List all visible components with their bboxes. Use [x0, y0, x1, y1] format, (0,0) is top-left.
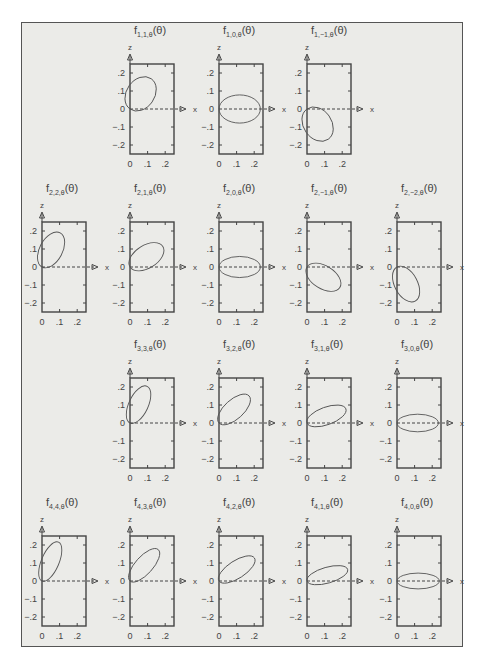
z-tick-label: −.2: [379, 612, 392, 622]
z-tick-label: −.2: [379, 298, 392, 308]
z-tick-label: 0: [32, 262, 37, 272]
z-tick-label: −.2: [379, 454, 392, 464]
lobe-plot-panel: f1,−1,θ(θ)z.2.10−.1−.20.1.2x: [289, 24, 374, 169]
x-tick-label: .1: [321, 159, 329, 169]
z-tick-label: 0: [120, 104, 125, 114]
x-axis-label: x: [370, 419, 374, 428]
z-tick-label: −.2: [112, 454, 125, 464]
z-tick-label: −.1: [112, 280, 125, 290]
z-tick-label: .1: [117, 86, 125, 96]
z-tick-label: 0: [209, 418, 214, 428]
x-axis-label: x: [105, 263, 109, 272]
z-tick-label: −.2: [201, 298, 214, 308]
z-tick-label: −.2: [24, 298, 37, 308]
z-tick-label: 0: [120, 418, 125, 428]
z-axis-label: z: [395, 201, 399, 210]
z-tick-label: 0: [297, 104, 302, 114]
z-tick-label: −.1: [379, 280, 392, 290]
z-tick-label: −.1: [289, 594, 302, 604]
z-axis-label: z: [305, 43, 309, 52]
lobe-curve: [118, 71, 162, 117]
z-tick-label: .2: [294, 68, 302, 78]
x-tick-label: .1: [321, 631, 329, 641]
x-tick-label: .1: [144, 317, 152, 327]
z-tick-label: .1: [384, 400, 392, 410]
z-tick-label: 0: [387, 418, 392, 428]
z-tick-label: −.1: [289, 280, 302, 290]
x-tick-label: .2: [73, 317, 81, 327]
lobe-curve: [305, 562, 350, 589]
x-tick-label: 0: [39, 317, 44, 327]
panel-title: f4,3,θ(θ): [134, 496, 166, 510]
x-axis-label: x: [460, 419, 464, 428]
z-tick-label: −.1: [379, 594, 392, 604]
x-tick-label: .1: [233, 317, 241, 327]
x-tick-label: 0: [216, 159, 221, 169]
z-tick-label: −.1: [289, 436, 302, 446]
z-tick-label: 0: [120, 576, 125, 586]
z-tick-label: .2: [117, 226, 125, 236]
z-tick-label: −.1: [24, 280, 37, 290]
z-tick-label: .2: [294, 540, 302, 550]
z-tick-label: .2: [206, 68, 214, 78]
z-tick-label: .1: [29, 244, 37, 254]
z-tick-label: .1: [384, 558, 392, 568]
z-tick-label: .2: [294, 382, 302, 392]
z-tick-label: −.1: [201, 436, 214, 446]
x-tick-label: 0: [304, 159, 309, 169]
x-tick-label: 0: [216, 631, 221, 641]
z-tick-label: 0: [209, 262, 214, 272]
panel-title: f1,−1,θ(θ): [311, 24, 347, 38]
lobe-plot-panel: f3,1,θ(θ)z.2.10−.1−.20.1.2x: [289, 338, 374, 483]
x-axis-label: x: [193, 419, 197, 428]
x-tick-label: 0: [127, 473, 132, 483]
x-tick-label: .2: [250, 317, 258, 327]
z-tick-label: .2: [117, 540, 125, 550]
z-axis-label: z: [217, 43, 221, 52]
x-tick-label: .2: [338, 317, 346, 327]
panel-title: f4,2,θ(θ): [223, 496, 255, 510]
x-tick-label: 0: [39, 631, 44, 641]
z-tick-label: .1: [117, 244, 125, 254]
lobe-plot-panel: f2,−2,θ(θ)z.2.10−.1−.20.1.2x: [379, 182, 464, 327]
panel-title: f2,−1,θ(θ): [311, 182, 347, 196]
lobe-plot-panel: f4,3,θ(θ)z.2.10−.1−.20.1.2x: [112, 496, 197, 641]
lobe-curve: [387, 262, 425, 307]
x-tick-label: .2: [338, 473, 346, 483]
z-axis-label: z: [128, 43, 132, 52]
x-axis-label: x: [460, 263, 464, 272]
lobe-plot-panel: f2,−1,θ(θ)z.2.10−.1−.20.1.2x: [289, 182, 374, 327]
x-tick-label: 0: [127, 159, 132, 169]
z-tick-label: .1: [294, 558, 302, 568]
z-tick-label: .1: [206, 400, 214, 410]
lobe-plot-panel: f2,2,θ(θ)z.2.10−.1−.20.1.2x: [24, 182, 109, 327]
z-tick-label: .1: [206, 244, 214, 254]
x-tick-label: 0: [394, 473, 399, 483]
lobe-curve: [34, 539, 67, 585]
x-tick-label: .1: [56, 317, 64, 327]
z-tick-label: −.2: [201, 454, 214, 464]
x-tick-label: .2: [338, 631, 346, 641]
x-axis-label: x: [282, 105, 286, 114]
panel-title: f4,0,θ(θ): [401, 496, 433, 510]
panel-title: f2,0,θ(θ): [223, 182, 255, 196]
z-axis-label: z: [217, 357, 221, 366]
z-tick-label: −.1: [201, 594, 214, 604]
lobe-curve: [121, 382, 156, 427]
lobe-plot-panel: f3,3,θ(θ)z.2.10−.1−.20.1.2x: [112, 338, 197, 483]
z-tick-label: 0: [120, 262, 125, 272]
x-axis-label: x: [282, 263, 286, 272]
panel-title: f3,0,θ(θ): [401, 338, 433, 352]
x-axis-label: x: [193, 263, 197, 272]
x-axis-label: x: [460, 577, 464, 586]
z-axis-label: z: [40, 201, 44, 210]
lobe-plot-panel: f2,1,θ(θ)z.2.10−.1−.20.1.2x: [112, 182, 197, 327]
x-tick-label: .2: [428, 631, 436, 641]
z-tick-label: 0: [297, 262, 302, 272]
z-tick-label: −.1: [379, 436, 392, 446]
z-tick-label: .2: [117, 68, 125, 78]
x-tick-label: .1: [411, 317, 419, 327]
x-tick-label: .1: [411, 631, 419, 641]
z-axis-label: z: [305, 515, 309, 524]
z-tick-label: .2: [29, 226, 37, 236]
